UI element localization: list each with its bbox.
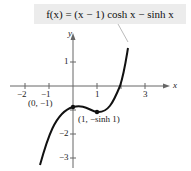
x-axis-label: x: [173, 80, 177, 90]
y-tick-label: −2: [59, 128, 69, 138]
x-tick-label: 1: [95, 89, 100, 99]
function-curve: [40, 48, 128, 165]
point-marker: [71, 105, 75, 109]
x-tick-label: 3: [143, 89, 148, 99]
plot-area: [0, 0, 191, 171]
y-tick-label: 1: [64, 56, 69, 66]
point-label: (0, −1): [28, 98, 53, 108]
point-label: (1, −sinh 1): [78, 114, 120, 124]
x-tick-label: −2: [17, 89, 27, 99]
y-axis-label: y: [68, 28, 72, 38]
y-tick-label: −3: [59, 152, 69, 162]
